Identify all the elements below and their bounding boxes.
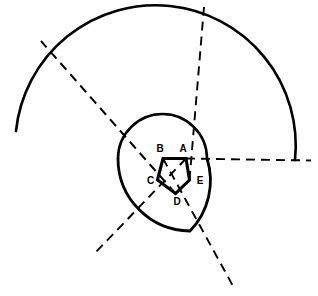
vertex-label-C: C bbox=[147, 175, 154, 186]
vertex-label-D: D bbox=[173, 196, 180, 207]
vertex-label-A: A bbox=[179, 143, 186, 154]
vertex-label-E: E bbox=[197, 175, 204, 186]
geometry-figure: ABCDE bbox=[0, 0, 318, 296]
spiral-pentagon-diagram: ABCDE bbox=[0, 0, 318, 296]
vertex-label-B: B bbox=[156, 143, 163, 154]
